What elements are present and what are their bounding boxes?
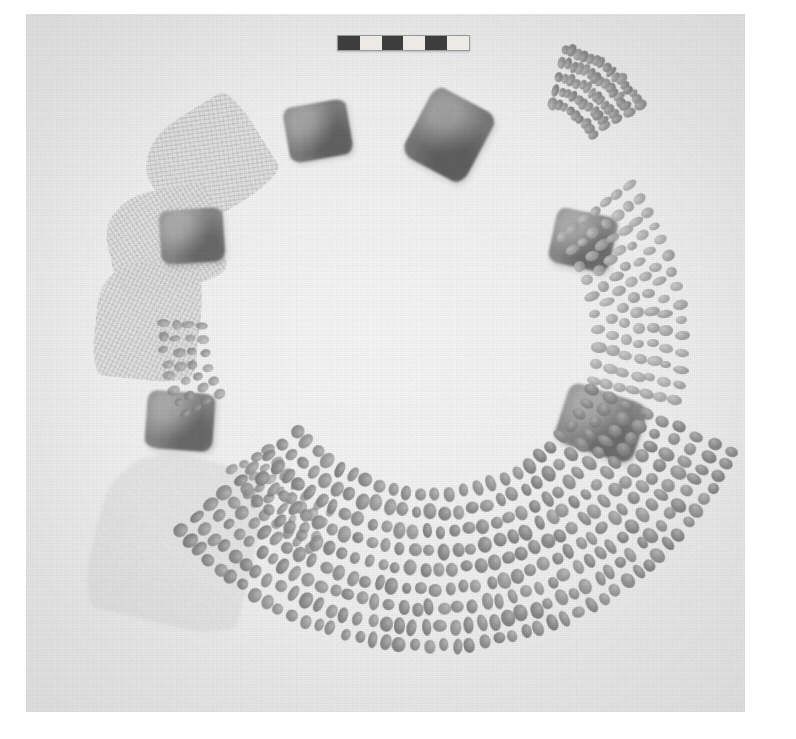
- bead: [452, 543, 465, 558]
- bead: [571, 605, 587, 620]
- bead: [564, 417, 581, 434]
- bead: [335, 546, 350, 561]
- bead: [340, 628, 353, 642]
- bead: [294, 527, 310, 543]
- bead: [392, 637, 406, 653]
- bead: [458, 580, 468, 593]
- bead: [463, 637, 476, 654]
- bead: [439, 638, 449, 652]
- bead: [379, 616, 394, 633]
- bead: [607, 582, 623, 599]
- bead: [429, 584, 442, 597]
- bead: [665, 431, 682, 448]
- bead: [399, 600, 410, 615]
- bead: [394, 618, 406, 635]
- bead: [505, 587, 519, 605]
- bead: [396, 501, 410, 517]
- bead: [366, 517, 379, 532]
- bead: [402, 583, 411, 595]
- bead: [200, 551, 217, 568]
- bead: [412, 602, 424, 616]
- bead: [445, 563, 458, 578]
- bead: [469, 579, 481, 593]
- bead: [477, 536, 492, 553]
- bead: [453, 638, 463, 654]
- scale-bar-segment-5: [425, 36, 447, 50]
- bead: [379, 537, 392, 553]
- bead: [433, 619, 447, 632]
- bead: [460, 560, 473, 572]
- scale-bar-segment-4: [403, 36, 425, 50]
- bead: [445, 582, 455, 595]
- bead: [479, 634, 492, 649]
- bead: [348, 550, 361, 565]
- bead: [589, 477, 605, 493]
- bead: [429, 487, 440, 500]
- bead: [313, 579, 330, 596]
- photograph-plate: [26, 14, 745, 712]
- bead: [405, 619, 418, 638]
- bead: [423, 544, 435, 557]
- bead: [415, 489, 427, 501]
- bead: [355, 590, 370, 606]
- bead: [423, 598, 435, 616]
- bead: [464, 500, 481, 516]
- bead: [535, 555, 552, 572]
- bead: [493, 593, 504, 610]
- bead: [532, 580, 546, 597]
- scale-bar-segment-1: [338, 36, 360, 50]
- bead: [532, 514, 547, 531]
- bead: [465, 543, 476, 555]
- bead: [350, 610, 364, 627]
- bead: [382, 599, 395, 612]
- bead: [550, 551, 565, 566]
- bead: [449, 524, 461, 536]
- bead: [387, 482, 399, 496]
- bead: [273, 578, 290, 595]
- bead: [380, 519, 393, 533]
- bead: [407, 525, 419, 540]
- bead: [259, 572, 275, 590]
- bead: [390, 561, 401, 573]
- bead: [415, 582, 427, 594]
- bead: [653, 413, 671, 430]
- bead: [235, 577, 250, 593]
- bead: [475, 613, 489, 632]
- bead: [678, 483, 695, 499]
- bead: [436, 527, 445, 540]
- bead: [354, 630, 366, 644]
- bead: [422, 618, 432, 636]
- bead: [493, 631, 506, 644]
- bead: [323, 619, 337, 637]
- bead: [453, 505, 465, 520]
- bead: [383, 497, 399, 516]
- bead: [450, 600, 463, 612]
- bead: [491, 531, 509, 549]
- bead: [400, 485, 413, 502]
- bead: [450, 619, 462, 635]
- bead: [368, 593, 379, 611]
- bead: [423, 523, 433, 538]
- bead: [518, 584, 533, 599]
- bead: [479, 498, 495, 513]
- bead: [483, 473, 499, 492]
- bead: [582, 381, 601, 398]
- bead: [299, 614, 313, 630]
- screenshot-root: Circular arrangement of woven matting fr…: [0, 0, 796, 739]
- bead: [371, 478, 387, 495]
- bead: [461, 521, 475, 534]
- bead: [473, 556, 489, 573]
- bead: [443, 487, 456, 503]
- bead: [593, 519, 611, 537]
- bead: [519, 481, 533, 496]
- bead: [384, 577, 400, 596]
- photograph-subject: Ring-shaped arrangement of excavated art…: [0, 0, 1, 1]
- bead: [367, 613, 379, 628]
- bead: [379, 634, 393, 652]
- bead: [392, 522, 407, 540]
- bead: [647, 427, 661, 440]
- bead: [351, 530, 365, 544]
- bead: [285, 608, 300, 624]
- bead: [458, 483, 469, 497]
- bead: [437, 506, 451, 521]
